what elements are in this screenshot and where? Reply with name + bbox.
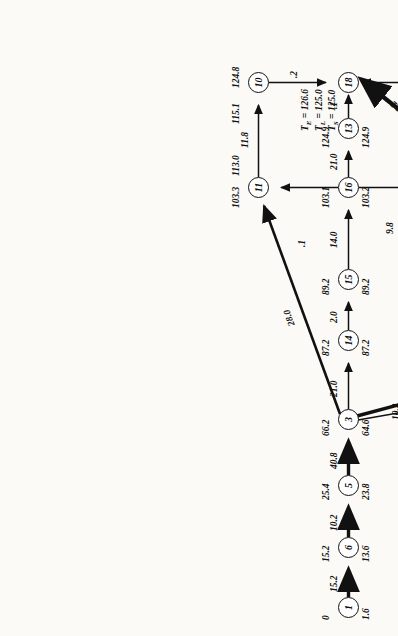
edge-label-3-7: 10.2 [392, 403, 398, 420]
node-11-tl: 113.0 [232, 155, 242, 176]
edge-label-13-18: .1 [330, 102, 340, 109]
edge-label-11-10: 11.8 [241, 132, 251, 148]
figure-page: 1 0 1.6 6 15.2 13.6 5 25.4 23.8 3 66.2 6… [0, 0, 398, 636]
node-3-te: 66.2 [322, 419, 332, 436]
node-10-te: 115.1 [232, 103, 242, 124]
node-14-te: 87.2 [322, 339, 332, 356]
edge-label-15-16: 14.0 [330, 231, 340, 248]
node-10-tl: 124.8 [232, 67, 242, 88]
node-16-te: 103.1 [322, 187, 332, 208]
node-14[interactable]: 14 [338, 330, 359, 351]
node-3-tl: 64.6 [362, 419, 372, 436]
edge-label-10-18: .2 [290, 71, 300, 78]
node-13[interactable]: 13 [338, 118, 359, 139]
edge-label-16-17: 9.8 [386, 222, 396, 234]
node-5-tl: 23.8 [362, 483, 372, 500]
node-15-tl: 89.2 [362, 278, 372, 295]
node-6-tl: 13.6 [362, 545, 372, 562]
edge-label-14-15: 2.0 [330, 311, 340, 323]
node-3[interactable]: 3 [338, 409, 359, 430]
edge-label-16-13: 21.0 [330, 153, 340, 170]
edge-label-16-11: .1 [298, 240, 308, 247]
tl-line: TL = 125.0 [314, 89, 324, 131]
node-1[interactable]: 1 [338, 597, 359, 618]
edge-label-1-6: 15.2 [330, 575, 340, 592]
ts-line: TS = 125.0 [327, 90, 337, 131]
node-6[interactable]: 6 [338, 537, 359, 558]
node-16-tl: 103.2 [362, 187, 372, 208]
node-18-target-stats: TE = 126.6 TL = 125.0 TS = 125.0 [300, 89, 341, 131]
node-1-tl: 1.6 [362, 608, 372, 620]
node-15[interactable]: 15 [338, 269, 359, 290]
node-5[interactable]: 5 [338, 475, 359, 496]
node-10[interactable]: 10 [248, 72, 269, 93]
te-line: TE = 126.6 [300, 89, 310, 131]
node-11[interactable]: 11 [248, 177, 269, 198]
node-16[interactable]: 16 [338, 177, 359, 198]
node-5-te: 25.4 [322, 483, 332, 500]
edge-label-6-5: 10.2 [330, 514, 340, 531]
node-18[interactable]: 18 [338, 72, 359, 93]
node-11-te: 103.3 [232, 187, 242, 208]
node-14-tl: 87.2 [362, 339, 372, 356]
edge-label-5-3: 40.8 [330, 452, 340, 469]
pert-network-canvas: 1 0 1.6 6 15.2 13.6 5 25.4 23.8 3 66.2 6… [0, 0, 398, 636]
node-13-tl: 124.9 [362, 127, 372, 148]
node-1-te: 0 [322, 615, 332, 620]
node-15-te: 89.2 [322, 278, 332, 295]
node-6-te: 15.2 [322, 545, 332, 562]
edge-label-3-14: 21.0 [330, 380, 340, 397]
